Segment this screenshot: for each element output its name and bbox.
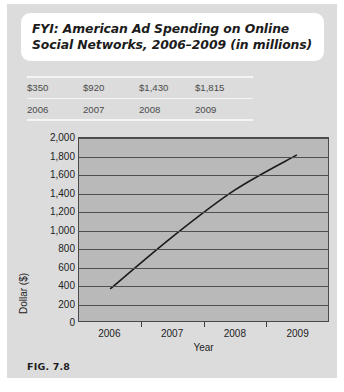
x-axis-tick-label: 2006 xyxy=(74,328,144,339)
y-axis-tick-label: 1,600 xyxy=(29,169,75,180)
figure-caption: FIG. 7.8 xyxy=(27,361,70,372)
table-row-values: $350 $920 $1,430 $1,815 xyxy=(27,78,317,98)
gridline xyxy=(79,305,328,306)
y-axis-tick-label: 0 xyxy=(29,317,75,328)
x-axis-label: Year xyxy=(78,342,329,353)
table-cell-year: 2009 xyxy=(195,104,251,115)
table-cell-value: $350 xyxy=(27,82,83,93)
gridline xyxy=(79,175,328,176)
y-axis-tick-label: 200 xyxy=(29,298,75,309)
data-line xyxy=(79,138,328,321)
y-axis-tick-label: 400 xyxy=(29,280,75,291)
line-chart: Dollar ($) 02004006008001,0001,2001,4001… xyxy=(7,128,337,343)
gridline xyxy=(79,212,328,213)
table-cell-value: $1,430 xyxy=(139,82,195,93)
y-axis-tick-label: 2,000 xyxy=(29,132,75,143)
gridline xyxy=(79,194,328,195)
y-axis-tick-label: 800 xyxy=(29,243,75,254)
gridline xyxy=(79,249,328,250)
table-cell-year: 2006 xyxy=(27,104,83,115)
table-cell-year: 2008 xyxy=(139,104,195,115)
plot-area xyxy=(78,137,329,322)
gridline xyxy=(79,231,328,232)
y-axis-tick-label: 600 xyxy=(29,261,75,272)
page-title: FYI: American Ad Spending on Online Soci… xyxy=(21,21,324,54)
gridline xyxy=(79,286,328,287)
figure-title-box: FYI: American Ad Spending on Online Soci… xyxy=(21,13,324,61)
y-axis-tick-label: 1,200 xyxy=(29,206,75,217)
x-axis-tick-mark xyxy=(266,322,267,327)
figure-card: FYI: American Ad Spending on Online Soci… xyxy=(7,4,337,378)
x-axis-tick-mark xyxy=(204,322,205,327)
table-cell-value: $920 xyxy=(83,82,139,93)
gridline xyxy=(79,268,328,269)
x-axis-tick-label: 2007 xyxy=(137,328,207,339)
data-table: $350 $920 $1,430 $1,815 2006 2007 2008 2… xyxy=(27,76,317,121)
x-axis-tick-mark xyxy=(141,322,142,327)
y-axis-ticks: 02004006008001,0001,2001,4001,6001,8002,… xyxy=(25,128,75,343)
table-rule-bottom xyxy=(27,119,253,121)
y-axis-tick-label: 1,800 xyxy=(29,150,75,161)
y-axis-tick-label: 1,400 xyxy=(29,187,75,198)
gridline xyxy=(79,157,328,158)
table-cell-value: $1,815 xyxy=(195,82,251,93)
y-axis-tick-label: 1,000 xyxy=(29,224,75,235)
table-row-years: 2006 2007 2008 2009 xyxy=(27,99,317,119)
x-axis-tick-label: 2008 xyxy=(200,328,270,339)
x-axis-tick-label: 2009 xyxy=(263,328,333,339)
table-cell-year: 2007 xyxy=(83,104,139,115)
gridline xyxy=(79,138,328,139)
